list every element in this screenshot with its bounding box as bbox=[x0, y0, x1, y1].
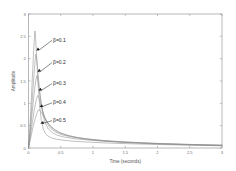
annotation-label: β=0.5 bbox=[53, 117, 66, 123]
annotation-label: β=0.1 bbox=[53, 37, 66, 43]
x-tick-label: 1.5 bbox=[122, 150, 128, 155]
y-tick-label: 1 bbox=[24, 101, 27, 106]
curve-β-0-5 bbox=[29, 110, 223, 148]
x-tick-label: 3 bbox=[221, 150, 224, 155]
x-axis-label: Time (seconds) bbox=[110, 159, 142, 164]
x-tick-label: 0 bbox=[27, 150, 30, 155]
data-curves bbox=[29, 31, 223, 148]
x-tick-label: 0.5 bbox=[58, 150, 64, 155]
x-axis-tick-labels: 00.511.522.53 bbox=[27, 150, 224, 155]
x-tick-label: 1 bbox=[92, 150, 95, 155]
y-tick-label: 0.5 bbox=[20, 123, 26, 128]
x-tick-label: 2 bbox=[156, 150, 159, 155]
y-tick-label: 2 bbox=[24, 56, 27, 61]
curve-β-0-1 bbox=[29, 31, 223, 148]
figure-canvas: 00.511.522.53 00.511.522.53 β=0.1β=0.2β=… bbox=[0, 0, 236, 171]
annotation-leader-line bbox=[38, 40, 52, 50]
curve-β-0-3 bbox=[29, 76, 223, 148]
y-tick-label: 1.5 bbox=[20, 79, 26, 84]
plot-svg: 00.511.522.53 00.511.522.53 β=0.1β=0.2β=… bbox=[0, 0, 236, 171]
y-tick-label: 2.5 bbox=[20, 34, 26, 39]
y-tick-label: 3 bbox=[24, 12, 27, 17]
annotation-leader-line bbox=[42, 103, 52, 107]
annotation-label: β=0.4 bbox=[53, 99, 66, 105]
x-tick-label: 2.5 bbox=[187, 150, 193, 155]
annotation-leader-line bbox=[40, 63, 52, 72]
y-tick-label: 0 bbox=[24, 146, 27, 151]
annotation-arrow-head bbox=[40, 121, 44, 124]
annotation-label: β=0.3 bbox=[53, 80, 66, 86]
y-axis-tick-labels: 00.511.522.53 bbox=[20, 12, 26, 151]
annotation-leader-line bbox=[41, 84, 52, 91]
y-axis-label: Amplitude bbox=[11, 70, 16, 91]
annotation-label: β=0.2 bbox=[53, 59, 66, 65]
